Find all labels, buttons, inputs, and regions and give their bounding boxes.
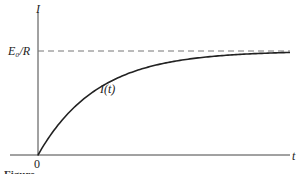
rl-current-figure xyxy=(0,0,301,174)
curve-label: I(t) xyxy=(100,83,115,95)
asymptote-label: E₀/R xyxy=(8,45,30,57)
y-axis-label: I xyxy=(36,3,40,15)
x-axis-label: t xyxy=(292,150,295,162)
current-curve xyxy=(38,52,290,155)
figure-caption: Figure xyxy=(4,168,35,174)
